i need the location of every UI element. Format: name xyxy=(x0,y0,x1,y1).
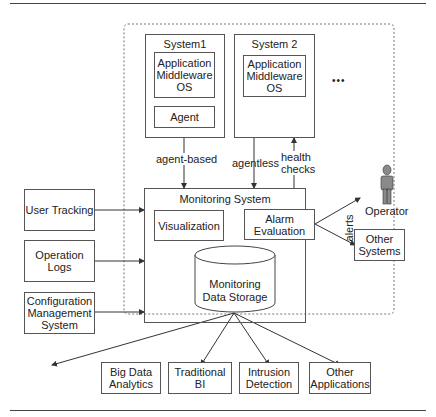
big-data-analytics-box: Big Data Analytics xyxy=(101,362,161,394)
analytics-label: Analytics xyxy=(109,378,153,390)
operator-label: Operator xyxy=(365,205,408,217)
intrusion-detection-box: Intrusion Detection xyxy=(239,362,299,394)
other-apps-label-1: Other xyxy=(326,366,354,378)
traditional-bi-label: Traditional BI xyxy=(169,366,231,390)
detection-label: Detection xyxy=(246,378,292,390)
other-label: Other xyxy=(366,233,394,245)
other-apps-label-2: Applications xyxy=(310,378,369,390)
intrusion-label: Intrusion xyxy=(248,366,290,378)
other-applications-box: Other Applications xyxy=(309,362,371,394)
other-systems-box: Other Systems xyxy=(354,229,405,261)
big-data-label: Big Data xyxy=(110,366,152,378)
traditional-bi-box: Traditional BI xyxy=(168,362,232,394)
systems-label: Systems xyxy=(358,245,400,257)
